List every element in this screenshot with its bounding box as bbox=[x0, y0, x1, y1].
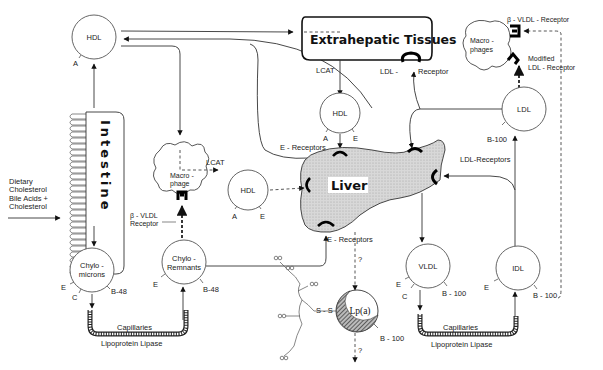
villus bbox=[70, 156, 86, 161]
idl-apo-e: E bbox=[484, 283, 489, 292]
villus bbox=[70, 204, 86, 209]
unknown-top-label: ? bbox=[358, 255, 362, 264]
hdl-to-macrophage-arrow bbox=[121, 46, 180, 135]
chylo-remnants-label-1: Chylo - bbox=[172, 254, 196, 263]
modified-ldl-receptor-1: Modified bbox=[528, 55, 555, 62]
chylomicrons-apo-e: E bbox=[61, 283, 66, 292]
macrophage-left: Macro - phage bbox=[153, 142, 208, 200]
kringle-loop bbox=[284, 356, 288, 360]
vldl-label: VLDL bbox=[419, 262, 438, 271]
villus bbox=[70, 210, 86, 215]
kringle-loop bbox=[286, 266, 290, 270]
lpa-apo-b100: B - 100 bbox=[380, 334, 404, 343]
beta-vldl-receptor-right: β - VLDL - Receptor bbox=[507, 16, 570, 24]
idl-apo-b100: B - 100 bbox=[533, 291, 557, 300]
villus bbox=[70, 138, 86, 143]
capillaries-right-label: Capillaries bbox=[443, 323, 478, 332]
villus bbox=[70, 174, 86, 179]
macrophage-left-label-2: phage bbox=[170, 180, 190, 188]
kringle-loop bbox=[290, 266, 294, 270]
villus bbox=[70, 120, 86, 125]
dietary-label-line2: Cholesterol bbox=[9, 185, 47, 194]
villus bbox=[70, 198, 86, 203]
hdl-to-tissues-arrow bbox=[121, 31, 293, 32]
ldl-apo-b100: B-100 bbox=[487, 135, 507, 144]
macrophage-left-label-1: Macro - bbox=[170, 172, 194, 179]
villus bbox=[70, 222, 86, 227]
villus bbox=[70, 162, 86, 167]
idl-to-liver-arrow bbox=[444, 176, 515, 190]
lipase-left-label: Lipoprotein Lipase bbox=[101, 339, 162, 348]
dietary-input: Dietary Cholesterol Bile Acids + Cholest… bbox=[8, 177, 60, 218]
kringle-loop bbox=[278, 314, 282, 318]
chylomicrons-label-1: Chylo - bbox=[80, 261, 104, 270]
kringle-loop bbox=[278, 256, 282, 260]
liver: Liver bbox=[301, 140, 445, 232]
kringle-loop bbox=[310, 282, 314, 286]
hdl-top-apo-a: A bbox=[73, 59, 78, 68]
villus bbox=[70, 126, 86, 131]
hdl-middle-to-liver-dashed bbox=[270, 188, 304, 190]
ldl-to-tissues-arrow bbox=[414, 72, 420, 109]
chylo-remnants-apo-e: E bbox=[153, 280, 158, 289]
e-receptor-connector bbox=[250, 44, 310, 158]
villus bbox=[70, 186, 86, 191]
villus bbox=[70, 150, 86, 155]
chylomicrons-label-2: microns bbox=[79, 270, 106, 279]
macrophages-right-label-2: phages bbox=[470, 46, 493, 54]
kringle-loop bbox=[274, 256, 278, 260]
chylo-remnants-apo-b48: B-48 bbox=[203, 285, 219, 294]
villus bbox=[70, 180, 86, 185]
hdl-top-label: HDL bbox=[86, 33, 101, 42]
hdl-middle-node: HDL A E bbox=[228, 170, 268, 221]
villus bbox=[70, 168, 86, 173]
capillaries-right: Capillaries Lipoprotein Lipase bbox=[420, 314, 516, 349]
e-receptors-bottom-label: E - Receptors bbox=[327, 235, 373, 244]
hdl-center-apo-a: A bbox=[323, 134, 328, 143]
vldl-apo-e: E bbox=[396, 280, 401, 289]
villus bbox=[70, 114, 86, 119]
apo-a-kringle-chain: S - S bbox=[274, 256, 336, 360]
hdl-middle-label: HDL bbox=[240, 186, 255, 195]
ldl-receptor-suffix: Receptor bbox=[418, 67, 449, 76]
villus bbox=[70, 132, 86, 137]
lipase-right-label: Lipoprotein Lipase bbox=[431, 340, 492, 349]
ldl-receptors-label: LDL-Receptors bbox=[460, 155, 511, 164]
liver-label: Liver bbox=[331, 178, 368, 193]
kringle-loop bbox=[282, 314, 286, 318]
beta-vldl-receptor-left-2: Receptor bbox=[130, 220, 159, 228]
beta-vldl-receptor-left-1: β - VLDL bbox=[130, 212, 158, 220]
extrahepatic-label: Extrahepatic Tissues bbox=[310, 32, 456, 47]
lpa-node: Lp(a) B - 100 bbox=[336, 290, 404, 343]
idl-node: IDL E B - 100 bbox=[484, 246, 557, 300]
remnants-to-liver-arrow bbox=[206, 236, 326, 266]
hdl-middle-apo-a: A bbox=[232, 212, 237, 221]
kringle-loop bbox=[280, 356, 284, 360]
villus bbox=[70, 234, 86, 239]
vldl-node: VLDL E C B - 100 bbox=[396, 244, 466, 301]
chylomicrons-apo-c: C bbox=[72, 293, 78, 302]
hdl-center-label: HDL bbox=[332, 109, 347, 118]
lipoprotein-metabolism-diagram: Intestine Dietary Cholesterol Bile Acids… bbox=[0, 0, 603, 370]
capillaries-left: Capillaries Lipoprotein Lipase bbox=[90, 310, 186, 348]
chylo-remnants-label-2: Remnants bbox=[167, 263, 201, 272]
villus bbox=[70, 240, 86, 245]
idl-label: IDL bbox=[512, 264, 524, 273]
modified-ldl-receptor-2: LDL - Receptor bbox=[528, 64, 576, 72]
hdl-center-apo-e: E bbox=[353, 134, 358, 143]
dietary-label-line4: Cholesterol bbox=[9, 202, 47, 211]
kringle-loop bbox=[314, 282, 318, 286]
extrahepatic-tissues: Extrahepatic Tissues bbox=[302, 17, 456, 62]
hdl-middle-apo-e: E bbox=[260, 212, 265, 221]
ldl-receptor-prefix: LDL - bbox=[380, 67, 399, 76]
villus bbox=[70, 192, 86, 197]
lcat-mid-label: LCAT bbox=[206, 158, 225, 167]
chylo-remnants-node: Chylo - Remnants E B-48 bbox=[153, 240, 219, 294]
villus bbox=[70, 216, 86, 221]
unknown-bottom-label: ? bbox=[358, 346, 362, 355]
ldl-label: LDL bbox=[517, 105, 531, 114]
e-receptors-top-label: E - Receptors bbox=[280, 143, 326, 152]
vldl-apo-c: C bbox=[402, 292, 408, 301]
lcat-top-label: LCAT bbox=[316, 66, 335, 75]
intestine-label: Intestine bbox=[98, 120, 113, 213]
